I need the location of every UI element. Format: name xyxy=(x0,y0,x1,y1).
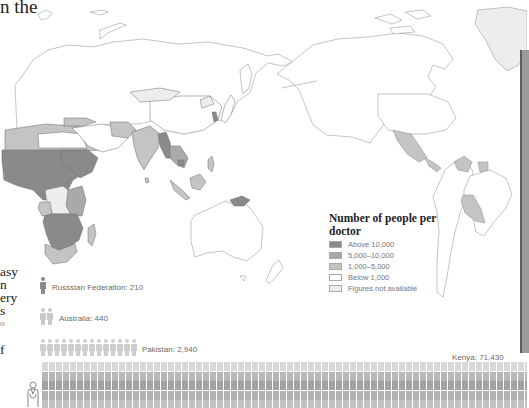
svalbard-land xyxy=(38,10,52,20)
doctor-icon xyxy=(26,381,40,408)
person-icons xyxy=(40,277,47,298)
papua-new-guinea xyxy=(230,196,250,206)
person-icon xyxy=(47,308,53,325)
person-icon xyxy=(40,308,46,325)
intro-text-line: s xyxy=(0,304,5,317)
mexico xyxy=(393,130,427,162)
person-icon xyxy=(68,339,74,356)
legend-title: Number of people per doctor xyxy=(329,212,449,238)
person-icon-row xyxy=(42,362,527,371)
person-icon xyxy=(40,339,46,356)
pictogram-row-australia: Australia: 440 xyxy=(40,308,108,329)
legend-swatch xyxy=(329,241,342,248)
southern-africa xyxy=(43,214,83,250)
pictogram-block-kenya xyxy=(42,362,527,408)
intro-text-line: f xyxy=(0,343,5,356)
angola xyxy=(38,202,52,216)
legend-item-5000-10000: 5,000–10,000 xyxy=(329,250,449,260)
iran-area xyxy=(110,122,136,138)
pictogram-row-pakistan: Pakistan: 2,940 xyxy=(40,339,197,360)
franz-josef-land xyxy=(90,10,108,15)
vertical-scale-bar xyxy=(520,50,529,353)
legend-label: 1,000–5,000 xyxy=(348,262,390,271)
legend-swatch xyxy=(329,263,342,270)
central-america xyxy=(425,158,441,172)
person-icons xyxy=(40,308,54,329)
person-icon xyxy=(82,339,88,356)
canadian-arctic xyxy=(375,10,431,34)
legend-label: Figures not available xyxy=(348,284,417,293)
intro-heading-fragment: n the xyxy=(0,0,37,18)
pictogram-label-kenya: Kenya: 71,430 xyxy=(452,353,504,362)
person-icon-row xyxy=(42,391,527,400)
pictogram-label: Australia: 440 xyxy=(59,314,108,323)
legend-item-below-1000: Below 1,000 xyxy=(329,272,449,282)
guyanas xyxy=(478,162,488,172)
person-icon xyxy=(110,339,116,356)
indonesia-sumatra xyxy=(170,180,190,200)
pictogram-label: Pakistan: 2,940 xyxy=(142,345,197,354)
tasmania xyxy=(240,276,246,281)
legend-item-1000-5000: 1,000–5,000 xyxy=(329,261,449,271)
legend-item-above-10000: Above 10,000 xyxy=(329,239,449,249)
madagascar xyxy=(88,224,96,246)
person-icon xyxy=(47,339,53,356)
legend-label: 5,000–10,000 xyxy=(348,251,394,260)
person-icon xyxy=(131,339,137,356)
pictogram-label: Russsian Federation: 210 xyxy=(52,283,143,292)
person-icon xyxy=(117,339,123,356)
person-icon xyxy=(61,339,67,356)
pictogram-row-russia: Russsian Federation: 210 xyxy=(40,277,143,298)
usa xyxy=(378,94,456,134)
person-icons xyxy=(40,339,138,360)
person-icon xyxy=(54,339,60,356)
philippines xyxy=(208,156,214,172)
person-icon-row xyxy=(42,372,527,381)
india xyxy=(132,126,160,170)
cambodia xyxy=(178,160,184,166)
sri-lanka xyxy=(145,178,149,183)
legend-swatch xyxy=(329,252,342,259)
person-icon xyxy=(89,339,95,356)
legend-swatch xyxy=(329,274,342,281)
novaya-zemlya xyxy=(100,23,126,39)
person-icon xyxy=(103,339,109,356)
person-icon xyxy=(40,277,46,294)
legend-item-not-available: Figures not available xyxy=(329,283,449,293)
person-icon xyxy=(124,339,130,356)
person-icon xyxy=(96,339,102,356)
map-legend: Number of people per doctor Above 10,000… xyxy=(329,212,449,293)
person-icon-row xyxy=(42,400,527,408)
borneo xyxy=(190,174,206,190)
legend-swatch xyxy=(329,285,342,292)
person-icon xyxy=(75,339,81,356)
legend-label: Below 1,000 xyxy=(348,273,389,282)
intro-text-line: o xyxy=(0,317,5,330)
australia xyxy=(191,199,263,261)
new-zealand xyxy=(266,260,283,284)
person-icon-row xyxy=(42,381,527,390)
legend-label: Above 10,000 xyxy=(348,240,394,249)
world-choropleth-map xyxy=(0,0,527,360)
